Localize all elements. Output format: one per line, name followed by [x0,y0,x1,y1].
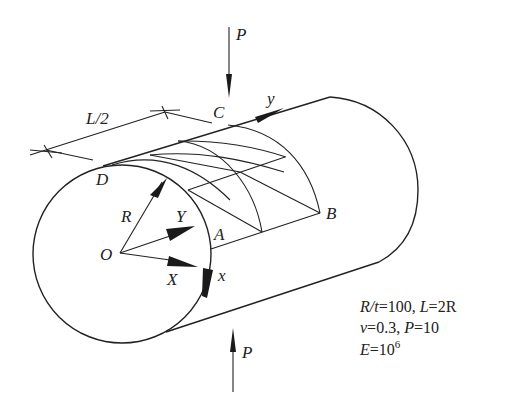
label-y: y [265,89,275,108]
global-Y-shaft [120,236,170,253]
label-B: B [326,204,337,223]
label-P-bottom: P [241,343,252,362]
global-Y-arrowhead [166,226,195,241]
label-D: D [95,170,109,189]
load-top-arrowhead [226,74,232,98]
label-X: X [166,270,178,289]
load-bottom-arrowhead [230,328,236,352]
radius-arrowhead [150,178,167,198]
dim-ext-left [46,150,93,160]
label-O: O [100,245,112,264]
dim-tick-right-a [150,110,180,111]
local-x-arrowhead [202,268,213,298]
param-line-1: R/t=100, L=2R [359,298,457,315]
label-x: x [217,266,226,285]
param-line-3: E=106 [359,338,401,358]
mesh-edge-AB [211,213,320,249]
global-X-shaft [120,253,170,260]
back-arc [330,97,418,262]
local-y-arrowhead [255,108,284,123]
global-X-arrowhead [167,256,198,267]
front-circle [33,165,211,343]
label-P-top: P [235,25,246,44]
mesh-long-mid [188,157,285,190]
label-C: C [213,103,225,122]
label-A: A [213,225,225,244]
label-Y: Y [176,207,187,226]
label-R: R [120,207,132,226]
mesh-arc-mid-circ [178,141,262,232]
bottom-generator [166,262,379,332]
label-L-half: L/2 [85,109,109,128]
dim-ext-right [165,112,212,123]
param-line-2: ν=0.3, P=10 [360,319,439,336]
pinched-cylinder-diagram: P P C y L/2 D R Y A B O X x R/t=100, L=2… [0,0,511,404]
